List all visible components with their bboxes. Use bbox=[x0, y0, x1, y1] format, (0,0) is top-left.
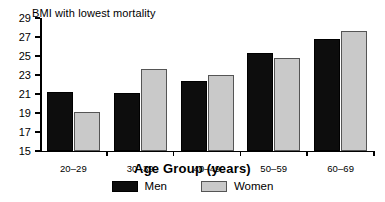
bar-men-40-49 bbox=[181, 81, 207, 151]
bar-men-50-59 bbox=[247, 53, 273, 151]
bar-women-60-69 bbox=[341, 31, 367, 151]
bmi-bar-chart: BMI with lowest mortality 15171921232527… bbox=[0, 0, 385, 202]
y-axis-tick: 15 bbox=[35, 150, 40, 152]
bar-men-20-29 bbox=[47, 92, 73, 151]
y-axis-tick-label: 29 bbox=[19, 13, 31, 24]
x-axis-tick bbox=[373, 151, 375, 156]
y-axis-tick-label: 23 bbox=[19, 70, 31, 81]
bar-men-30-39 bbox=[114, 93, 140, 151]
legend-item-men: Men bbox=[112, 180, 167, 192]
x-axis-tick bbox=[306, 151, 308, 156]
x-axis-tick bbox=[106, 151, 108, 156]
bar-women-30-39 bbox=[141, 69, 167, 151]
y-axis-tick: 29 bbox=[35, 17, 40, 19]
y-axis-tick-label: 15 bbox=[19, 146, 31, 157]
y-axis-tick: 19 bbox=[35, 112, 40, 114]
plot-area: 151719212325272920–2930–3940–4950–5960–6… bbox=[40, 18, 374, 151]
legend-label-women: Women bbox=[234, 180, 273, 192]
legend-label-men: Men bbox=[145, 180, 167, 192]
y-axis-tick: 27 bbox=[35, 36, 40, 38]
x-axis-tick bbox=[173, 151, 175, 156]
bar-women-20-29 bbox=[74, 112, 100, 151]
x-axis-tick bbox=[240, 151, 242, 156]
y-axis-tick-label: 25 bbox=[19, 51, 31, 62]
chart-legend: MenWomen bbox=[0, 180, 385, 192]
y-axis-tick: 25 bbox=[35, 55, 40, 57]
y-axis-tick: 17 bbox=[35, 131, 40, 133]
x-axis-title: Age Group (years) bbox=[0, 161, 385, 176]
y-axis-tick-label: 27 bbox=[19, 32, 31, 43]
bar-women-50-59 bbox=[274, 58, 300, 151]
bar-men-60-69 bbox=[314, 39, 340, 151]
y-axis-tick: 23 bbox=[35, 74, 40, 76]
legend-swatch-men bbox=[112, 181, 138, 192]
y-axis-tick-label: 21 bbox=[19, 89, 31, 100]
bar-women-40-49 bbox=[208, 75, 234, 151]
y-axis-tick-label: 17 bbox=[19, 127, 31, 138]
legend-item-women: Women bbox=[201, 180, 273, 192]
legend-swatch-women bbox=[201, 181, 227, 192]
y-axis-tick: 21 bbox=[35, 93, 40, 95]
y-axis-tick-label: 19 bbox=[19, 108, 31, 119]
